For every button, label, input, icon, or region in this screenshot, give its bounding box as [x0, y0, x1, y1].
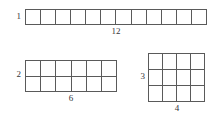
unit-square — [177, 70, 191, 86]
unit-square — [177, 86, 191, 102]
unit-square — [177, 54, 191, 70]
height-label-figure-1: 1 — [6, 12, 21, 21]
height-label-figure-2: 2 — [6, 70, 21, 79]
width-label-figure-3: 4 — [147, 104, 207, 113]
unit-square — [177, 10, 192, 25]
unit-square — [87, 77, 102, 93]
unit-square — [72, 77, 87, 93]
unit-square — [86, 10, 101, 25]
unit-square-grid-2x6 — [25, 60, 117, 92]
unit-square — [102, 77, 117, 93]
unit-square — [41, 10, 56, 25]
unit-square — [56, 10, 71, 25]
unit-square — [72, 61, 87, 77]
unit-square — [191, 54, 205, 70]
unit-square — [26, 10, 41, 25]
width-label-figure-2: 6 — [41, 94, 101, 103]
unit-square — [26, 77, 41, 93]
unit-square — [192, 10, 207, 25]
height-label-figure-3: 3 — [130, 72, 145, 81]
unit-square — [41, 61, 56, 77]
unit-square — [132, 10, 147, 25]
unit-square — [163, 86, 177, 102]
unit-square — [116, 10, 131, 25]
unit-square-grid-3x4 — [148, 53, 205, 102]
unit-square — [191, 70, 205, 86]
unit-square — [102, 61, 117, 77]
unit-square — [41, 77, 56, 93]
width-label-figure-1: 12 — [86, 27, 146, 36]
unit-square-grid-1x12 — [25, 9, 207, 25]
unit-square — [191, 86, 205, 102]
unit-square — [56, 61, 71, 77]
unit-square — [71, 10, 86, 25]
unit-square — [162, 10, 177, 25]
unit-square — [149, 70, 163, 86]
unit-square — [163, 54, 177, 70]
unit-square — [147, 10, 162, 25]
unit-square — [101, 10, 116, 25]
unit-square — [87, 61, 102, 77]
unit-square — [26, 61, 41, 77]
unit-square — [163, 70, 177, 86]
unit-square — [149, 54, 163, 70]
unit-square — [149, 86, 163, 102]
unit-square — [56, 77, 71, 93]
